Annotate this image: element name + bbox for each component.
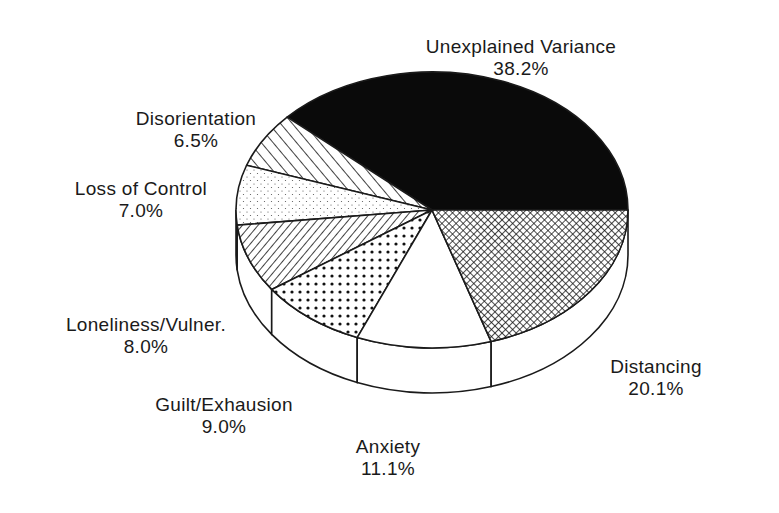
- label-name: Disorientation: [136, 108, 256, 129]
- label-distancing: Distancing 20.1%: [610, 356, 702, 400]
- pie-top-slices: [236, 72, 628, 348]
- label-name: Guilt/Exhausion: [155, 394, 293, 415]
- label-guilt-exhausion: Guilt/Exhausion 9.0%: [155, 394, 293, 438]
- label-percent: 7.0%: [75, 200, 207, 222]
- label-percent: 38.2%: [426, 58, 617, 80]
- label-name: Loneliness/Vulner.: [66, 314, 226, 335]
- label-disorientation: Disorientation 6.5%: [136, 108, 256, 152]
- label-name: Unexplained Variance: [426, 36, 617, 57]
- label-name: Anxiety: [356, 436, 420, 457]
- label-percent: 9.0%: [155, 416, 293, 438]
- label-loneliness: Loneliness/Vulner. 8.0%: [66, 314, 226, 358]
- label-percent: 8.0%: [66, 336, 226, 358]
- label-name: Distancing: [610, 356, 702, 377]
- label-percent: 20.1%: [610, 378, 702, 400]
- label-percent: 6.5%: [136, 130, 256, 152]
- label-loss-of-control: Loss of Control 7.0%: [75, 178, 207, 222]
- label-unexplained-variance: Unexplained Variance 38.2%: [426, 36, 617, 80]
- label-percent: 11.1%: [356, 458, 420, 480]
- label-anxiety: Anxiety 11.1%: [356, 436, 420, 480]
- label-name: Loss of Control: [75, 178, 207, 199]
